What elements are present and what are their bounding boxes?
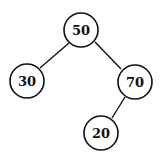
svg-text:30: 30: [18, 74, 36, 89]
node-20: 20: [84, 116, 118, 150]
tree-diagram: 50 30 70 20: [0, 0, 162, 162]
node-30: 30: [10, 64, 44, 98]
svg-text:20: 20: [92, 126, 110, 141]
svg-text:50: 50: [72, 23, 90, 38]
edge-50-70: [95, 42, 121, 69]
node-70: 70: [118, 65, 152, 99]
edge-70-20: [112, 97, 125, 118]
node-50: 50: [64, 13, 98, 47]
svg-text:70: 70: [126, 75, 144, 90]
edge-50-30: [40, 43, 69, 68]
